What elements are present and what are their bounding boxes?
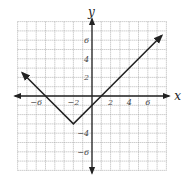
x-tick-label: 2: [107, 98, 113, 107]
x-tick-label: −2: [68, 98, 80, 107]
x-axis-label: x: [174, 89, 181, 103]
absolute-value-graph: −6−2246642−4−6 x y: [0, 0, 185, 182]
axes: [15, 19, 169, 173]
y-axis-label: y: [87, 5, 95, 19]
y-tick-label: 4: [83, 55, 89, 64]
x-tick-label: 6: [145, 98, 150, 107]
x-tick-label: 4: [126, 98, 132, 107]
y-tick-label: 2: [83, 73, 89, 82]
y-tick-label: −4: [77, 129, 89, 138]
y-tick-label: 6: [84, 36, 89, 45]
y-tick-label: −6: [77, 148, 89, 157]
x-tick-label: −6: [30, 98, 42, 107]
